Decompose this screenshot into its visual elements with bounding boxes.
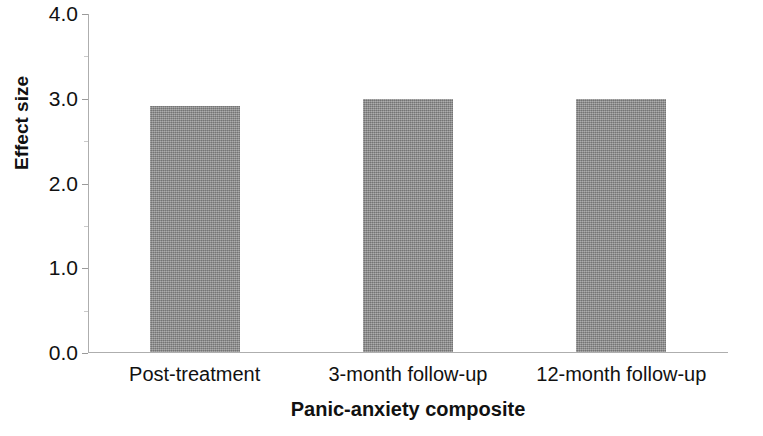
y-axis-tick-label: 1.0 xyxy=(26,257,78,278)
x-axis-line xyxy=(88,352,728,353)
y-axis-tick-label: 3.0 xyxy=(26,88,78,109)
x-axis-tick-label: 12-month follow-up xyxy=(515,362,728,386)
y-axis-minor-tick xyxy=(84,56,88,57)
y-axis-major-tick xyxy=(82,99,88,100)
y-axis-minor-tick xyxy=(84,311,88,312)
bar xyxy=(150,106,240,352)
x-axis-tick-labels: Post-treatment3-month follow-up12-month … xyxy=(88,362,728,392)
y-axis-major-tick xyxy=(82,268,88,269)
plot-area xyxy=(88,14,728,353)
y-axis-major-tick xyxy=(82,14,88,15)
y-axis-line xyxy=(88,14,89,353)
y-axis-major-tick xyxy=(82,184,88,185)
bar xyxy=(576,99,666,352)
y-axis-minor-tick xyxy=(84,141,88,142)
x-axis-tick-label: Post-treatment xyxy=(88,362,301,386)
x-axis-title: Panic-anxiety composite xyxy=(88,398,728,421)
y-axis-major-tick xyxy=(82,353,88,354)
bar xyxy=(363,99,453,352)
y-axis-tick-labels: 0.01.02.03.04.0 xyxy=(16,0,78,436)
y-axis-tick-label: 4.0 xyxy=(26,3,78,24)
x-axis-tick-label: 3-month follow-up xyxy=(301,362,514,386)
y-axis-tick-label: 0.0 xyxy=(26,342,78,363)
y-axis-tick-label: 2.0 xyxy=(26,173,78,194)
y-axis-minor-tick xyxy=(84,226,88,227)
bar-chart-figure: Effect size 0.01.02.03.04.0 Post-treatme… xyxy=(0,0,763,436)
